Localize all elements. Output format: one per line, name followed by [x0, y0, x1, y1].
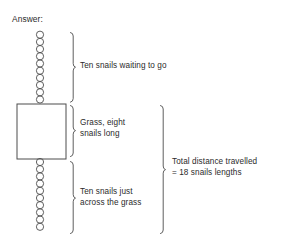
snail-circle	[36, 187, 43, 194]
snail-circle	[36, 31, 43, 38]
snail-circle	[36, 38, 43, 45]
snail-circle	[36, 96, 43, 103]
snail-circle	[36, 82, 43, 89]
snail-chain-bottom	[36, 158, 43, 230]
label-total-distance: Total distance travelled = 18 snails len…	[172, 156, 257, 178]
answer-label: Answer:	[12, 14, 43, 25]
snail-circle	[36, 202, 43, 209]
grass-box	[17, 104, 66, 159]
snail-circle	[36, 74, 43, 81]
snail-circle	[36, 60, 43, 67]
label-top-segment: Ten snails waiting to go	[80, 60, 167, 71]
diagram-graphics	[0, 0, 299, 246]
bracket-middle	[71, 106, 76, 157]
snail-circle	[36, 67, 43, 74]
snail-circle	[36, 180, 43, 187]
label-grass-segment: Grass, eight snails long	[80, 117, 125, 139]
snail-circle	[36, 194, 43, 201]
bracket-top	[71, 33, 76, 103]
snail-circle	[36, 166, 43, 173]
snail-circle	[36, 46, 43, 53]
snail-circle	[36, 216, 43, 223]
snail-circle	[36, 223, 43, 230]
label-bottom-segment: Ten snails just across the grass	[80, 186, 141, 208]
snail-circle	[36, 89, 43, 96]
snail-circle	[36, 209, 43, 216]
snail-circle	[36, 53, 43, 60]
bracket-bottom	[71, 162, 76, 234]
snail-chain-top	[36, 31, 43, 103]
bracket-total	[161, 106, 166, 234]
snail-distance-diagram: Answer: Ten snails waiting to go Grass, …	[0, 0, 299, 246]
snail-circle	[36, 173, 43, 180]
